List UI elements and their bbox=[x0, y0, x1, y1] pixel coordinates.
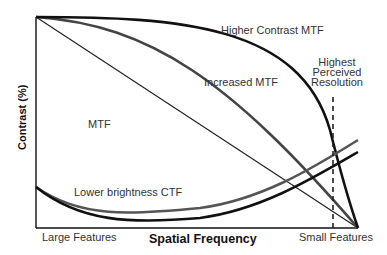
highest-label-line3: Resolution bbox=[311, 76, 363, 88]
lower-brightness-ctf-curve bbox=[36, 140, 358, 213]
mtf-label: MTF bbox=[88, 118, 111, 130]
increased-mtf-label: Increased MTF bbox=[204, 76, 278, 88]
x-tick-small-features: Small Features bbox=[299, 231, 373, 243]
y-axis-title: Contrast (%) bbox=[16, 84, 28, 150]
lower-brightness-ctf-label: Lower brightness CTF bbox=[74, 186, 182, 198]
x-tick-large-features: Large Features bbox=[42, 231, 117, 243]
higher-contrast-mtf-label: Higher Contrast MTF bbox=[221, 24, 324, 36]
mtf-ctf-diagram: MTF Increased MTF Higher Contrast MTF Lo… bbox=[0, 0, 387, 255]
x-axis-title: Spatial Frequency bbox=[149, 232, 257, 246]
